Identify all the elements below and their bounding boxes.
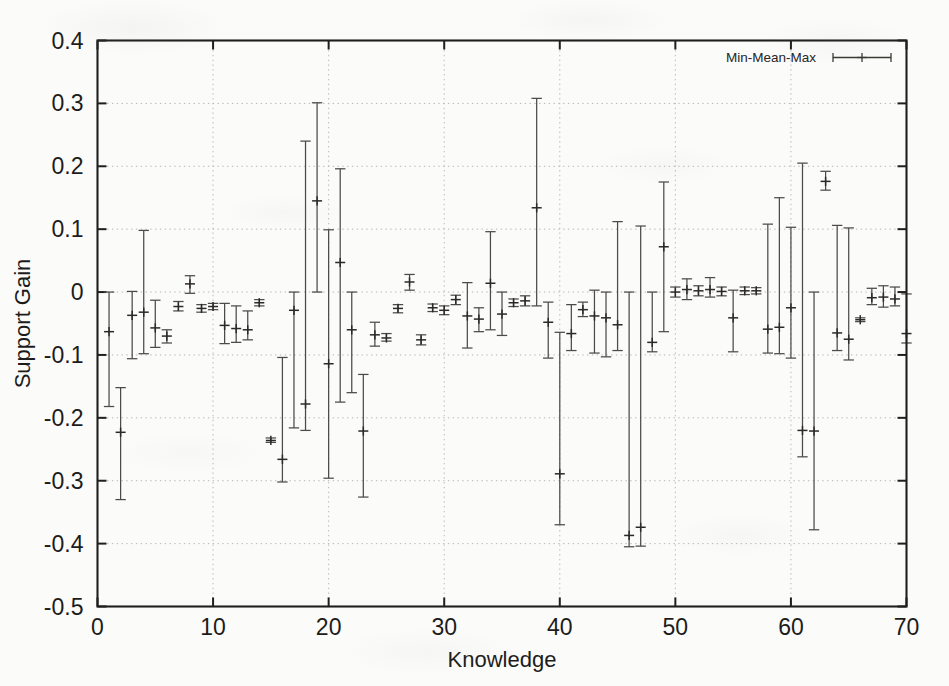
error-bar-point — [855, 315, 865, 324]
y-tick-label: -0.2 — [44, 405, 84, 431]
error-bar-point — [612, 222, 622, 351]
error-bar-point — [832, 225, 842, 350]
error-bar-point — [555, 332, 565, 524]
error-bar-point — [763, 224, 773, 353]
error-bar-point — [162, 330, 172, 343]
error-bar-point — [774, 198, 784, 354]
error-bar-point — [740, 286, 750, 295]
error-bar-point — [543, 302, 553, 358]
error-bar-point — [173, 301, 183, 311]
x-tick-label: 30 — [431, 614, 457, 640]
error-bar-point — [323, 230, 333, 478]
error-bar-point — [531, 98, 541, 306]
error-bar-point — [728, 290, 738, 352]
error-bar-point — [566, 305, 576, 351]
x-tick-label: 60 — [778, 614, 804, 640]
error-bar-point — [878, 286, 888, 307]
y-tick-label: 0.1 — [52, 216, 84, 242]
error-bar-point — [115, 388, 125, 500]
error-bar-point — [127, 291, 137, 358]
error-bar-point — [659, 182, 669, 332]
error-bar-point — [277, 357, 287, 482]
error-bar-point — [451, 295, 461, 305]
error-bar-point — [219, 303, 229, 343]
error-bar-point — [185, 276, 195, 294]
error-bar-point — [844, 228, 854, 360]
y-tick-label: 0.4 — [52, 28, 84, 54]
error-bar-point — [693, 286, 703, 296]
error-bar-point — [820, 171, 830, 190]
error-bar-point — [589, 290, 599, 353]
error-bar-point — [474, 308, 484, 332]
error-bar-point — [289, 292, 299, 428]
error-bar-point — [670, 287, 680, 297]
error-bar-point — [890, 287, 900, 306]
error-bar-point — [624, 292, 634, 547]
legend-label: Min-Mean-Max — [726, 50, 816, 65]
legend-symbol-icon — [833, 53, 891, 62]
y-tick-label: -0.1 — [44, 342, 84, 368]
y-tick-label: 0 — [71, 279, 84, 305]
error-bar-point — [578, 302, 588, 316]
x-tick-label: 40 — [547, 614, 573, 640]
error-bar-point — [104, 292, 114, 406]
error-bar-point — [635, 226, 645, 546]
error-bar-point — [705, 278, 715, 297]
error-bar-point — [520, 296, 530, 306]
error-bar-point — [266, 436, 276, 445]
y-tick-label: 0.3 — [52, 90, 84, 116]
y-tick-label: -0.3 — [44, 468, 84, 494]
error-bar-point — [150, 300, 160, 347]
y-axis-title: Support Gain — [10, 259, 35, 389]
error-bar-point — [439, 306, 449, 315]
y-tick-label: -0.5 — [44, 594, 84, 620]
x-tick-label: 20 — [316, 614, 342, 640]
error-bar-point — [809, 292, 819, 530]
error-bar-point — [335, 169, 345, 402]
error-bar-point — [358, 374, 368, 497]
error-bar-point — [381, 333, 391, 342]
x-tick-label: 0 — [91, 614, 104, 640]
error-bar-point — [786, 227, 796, 358]
error-bar-point — [497, 292, 507, 335]
error-bar-point — [416, 335, 426, 345]
x-axis-title: Knowledge — [448, 647, 557, 672]
error-bar-point — [716, 287, 726, 296]
y-tick-label: -0.4 — [44, 531, 84, 557]
error-bar-point — [347, 292, 357, 393]
error-bar-point — [508, 298, 518, 307]
error-bar-point — [647, 292, 657, 352]
error-bar-point — [208, 302, 218, 311]
error-bar-point — [867, 288, 877, 304]
x-tick-label: 10 — [200, 614, 226, 640]
chart-figure: 0.40.30.20.10-0.1-0.2-0.3-0.4-0.50102030… — [0, 0, 949, 686]
error-bar-point — [601, 292, 611, 357]
error-bar-point — [139, 230, 149, 353]
error-bar-point — [370, 322, 380, 346]
error-bar-point — [300, 141, 310, 430]
tick-labels-group: 0.40.30.20.10-0.1-0.2-0.3-0.4-0.50102030… — [44, 28, 919, 640]
y-tick-label: 0.2 — [52, 153, 84, 179]
error-bar-point — [393, 304, 403, 313]
error-bar-point — [243, 311, 253, 340]
support-gain-scatter-chart: 0.40.30.20.10-0.1-0.2-0.3-0.4-0.50102030… — [0, 0, 949, 686]
error-bar-point — [196, 304, 206, 313]
error-bar-point — [404, 274, 414, 290]
error-bar-point — [427, 303, 437, 312]
error-bar-point — [682, 279, 692, 300]
x-tick-label: 70 — [894, 614, 920, 640]
error-bar-point — [312, 103, 322, 292]
error-bar-point — [797, 163, 807, 457]
legend: Min-Mean-Max — [726, 50, 891, 65]
error-bar-point — [254, 298, 264, 307]
error-bar-point — [751, 286, 761, 295]
x-tick-label: 50 — [663, 614, 689, 640]
error-bar-point — [485, 232, 495, 330]
error-bar-point — [231, 306, 241, 342]
